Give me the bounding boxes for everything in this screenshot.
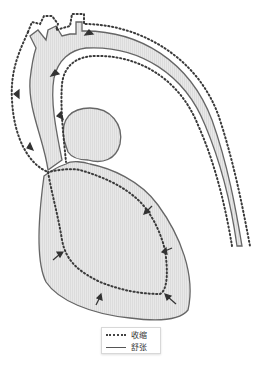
arrow-icon [27, 143, 33, 150]
arrow-icon [14, 90, 19, 98]
legend-item-diastole: 舒张 [106, 341, 160, 353]
left-atrium [63, 108, 120, 161]
solid-line-icon [106, 347, 126, 348]
legend-label-diastole: 舒张 [131, 342, 147, 353]
legend-label-systole: 收缩 [131, 330, 147, 341]
heart-diagram [0, 0, 260, 369]
legend: 收缩 舒张 [101, 327, 161, 354]
dotted-line-icon [106, 334, 126, 336]
legend-item-systole: 收缩 [106, 329, 160, 341]
